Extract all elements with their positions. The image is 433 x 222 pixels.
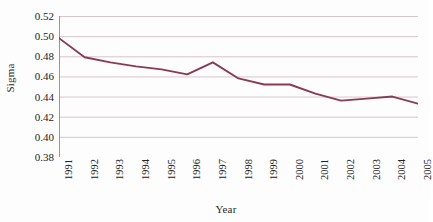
x-tick-label: 1995 <box>166 159 177 180</box>
x-axis-tick-labels: 1991199219931994199519961997199819992000… <box>59 157 418 203</box>
y-tick-label: 0.52 <box>14 10 54 22</box>
x-tick-label: 1991 <box>63 159 74 180</box>
line-chart-svg <box>59 16 418 157</box>
y-tick-label: 0.40 <box>14 131 54 143</box>
y-tick-label: 0.48 <box>14 50 54 62</box>
x-tick-label: 1998 <box>243 159 254 180</box>
y-tick-label: 0.46 <box>14 70 54 82</box>
x-axis-title-text: Year <box>215 203 236 215</box>
x-axis-title: Year <box>0 203 430 215</box>
y-axis-tick-labels: 0.520.500.480.460.440.420.400.38 <box>14 0 54 222</box>
y-tick-label: 0.44 <box>14 91 54 103</box>
x-tick-label: 2004 <box>396 159 407 180</box>
x-tick-label: 1996 <box>191 159 202 180</box>
x-tick-label: 1992 <box>89 159 100 180</box>
x-tick-label: 1999 <box>268 159 279 180</box>
y-tick-label: 0.42 <box>14 111 54 123</box>
x-tick-label: 2005 <box>422 159 433 180</box>
x-tick-label: 2002 <box>345 159 356 180</box>
y-tick-label: 0.38 <box>14 151 54 163</box>
y-tick-label: 0.50 <box>14 30 54 42</box>
x-tick-label: 2001 <box>319 159 330 180</box>
x-tick-label: 2003 <box>371 159 382 180</box>
x-tick-label: 1997 <box>217 159 228 180</box>
x-tick-label: 1994 <box>140 159 151 180</box>
x-tick-label: 1993 <box>114 159 125 180</box>
data-series-line <box>59 38 418 103</box>
x-tick-label: 2000 <box>294 159 305 180</box>
plot-area <box>59 16 418 157</box>
